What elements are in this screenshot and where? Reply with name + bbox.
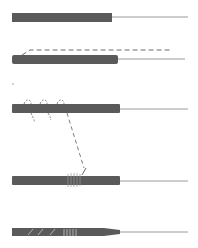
thread xyxy=(22,50,172,55)
sheath xyxy=(12,55,118,64)
thread-tail xyxy=(67,113,84,168)
step-5 xyxy=(12,228,188,236)
step-3 xyxy=(12,83,188,168)
thread-loop xyxy=(57,100,64,104)
dot xyxy=(12,83,14,85)
sheath xyxy=(12,176,120,185)
sheath xyxy=(12,104,120,113)
step-4 xyxy=(12,168,188,187)
sheath xyxy=(12,13,112,22)
thread-tail xyxy=(82,168,86,175)
step-2 xyxy=(12,50,185,64)
step-1 xyxy=(12,13,188,22)
needle-diagram xyxy=(0,0,198,248)
